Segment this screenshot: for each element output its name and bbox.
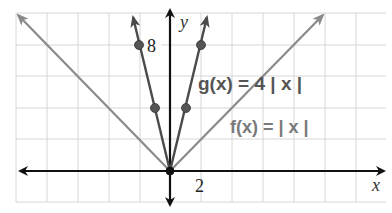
coordinate-graph: 8 y 2 x g(x) = 4 | x | f(x) = | x | xyxy=(0,0,392,213)
x-tick-label: 2 xyxy=(195,176,204,196)
x-axis-label: x xyxy=(371,175,380,195)
g-function-label: g(x) = 4 | x | xyxy=(198,73,302,94)
y-tick-label: 8 xyxy=(147,36,156,56)
f-function-label: f(x) = | x | xyxy=(230,117,309,137)
y-axis-label: y xyxy=(178,12,188,32)
